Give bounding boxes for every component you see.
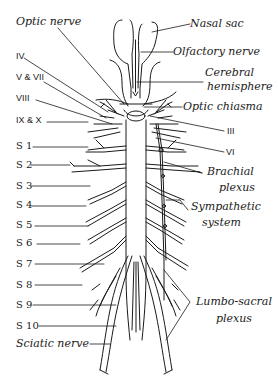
label-spinal-s3: S 3 <box>16 181 32 191</box>
label-cerebral: Cerebral <box>205 67 254 78</box>
label-lumbo-sacral: Lumbo-sacral <box>196 296 272 307</box>
label-cranial-ix-x: IX & X <box>16 116 42 125</box>
label-sciatic-nerve: Sciatic nerve <box>16 338 89 349</box>
label-olfactory-nerve: Olfactory nerve <box>173 46 260 57</box>
label-sympathetic-system: system <box>202 217 241 228</box>
label-spinal-s2: S 2 <box>16 160 32 170</box>
label-cranial-v-vii: V & VII <box>16 73 44 82</box>
label-optic-nerve: Optic nerve <box>16 16 81 27</box>
label-spinal-s10: S 10 <box>16 321 39 331</box>
label-cranial-vi: VI <box>226 148 235 157</box>
label-cranial-viii: VIII <box>16 94 30 103</box>
sympathetic-chain <box>156 124 167 300</box>
label-spinal-s7: S 7 <box>16 259 32 269</box>
label-hemisphere: hemisphere <box>207 81 273 92</box>
label-sympathetic: Sympathetic <box>191 201 261 212</box>
label-spinal-s4: S 4 <box>16 200 32 210</box>
optic-chiasma <box>120 104 152 121</box>
label-spinal-s5: S 5 <box>16 220 32 230</box>
label-cranial-iii: III <box>227 127 235 136</box>
label-spinal-s1: S 1 <box>16 141 32 151</box>
label-spinal-s8: S 8 <box>16 280 32 290</box>
nasal-sacs <box>114 20 158 98</box>
label-nasal-sac: Nasal sac <box>190 18 244 29</box>
cranial-nerve-branches <box>88 100 186 138</box>
label-cranial-iv: IV <box>16 52 25 61</box>
label-spinal-s9: S 9 <box>16 300 32 310</box>
label-lumbo-sacral-plexus: plexus <box>216 313 252 324</box>
label-brachial-plexus: plexus <box>219 182 255 193</box>
label-brachial: Brachial <box>207 166 254 177</box>
label-spinal-s6: S 6 <box>16 238 32 248</box>
label-optic-chiasma: Optic chiasma <box>183 101 263 112</box>
